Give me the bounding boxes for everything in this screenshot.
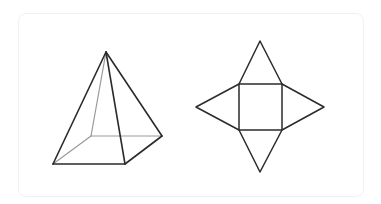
pyramid-net	[196, 41, 324, 172]
pyramid-visible-edges	[53, 52, 162, 164]
net-top-triangle	[239, 41, 282, 84]
diagram-canvas	[0, 0, 381, 204]
net-bottom-triangle	[239, 130, 282, 172]
net-left-triangle	[196, 84, 239, 130]
square-pyramid	[53, 52, 162, 164]
net-base-square	[239, 84, 282, 130]
net-right-triangle	[282, 84, 324, 130]
pyramid-hidden-edges	[53, 52, 162, 164]
